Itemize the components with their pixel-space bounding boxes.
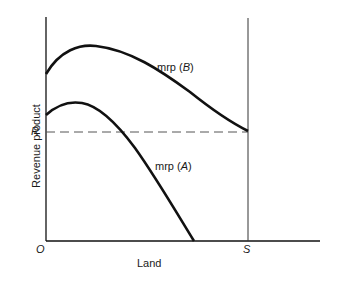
y-axis-label: Revenue product (30, 96, 42, 196)
r-label: R (31, 125, 39, 137)
x-axis-label: Land (137, 257, 161, 269)
mrp-a-prefix: mrp ( (155, 160, 181, 172)
diagram-canvas (0, 0, 337, 285)
mrp-a-letter: A (181, 160, 188, 172)
mrp-a-label: mrp (A) (155, 160, 192, 172)
s-label: S (243, 243, 250, 255)
mrp-b-label: mrp (B) (157, 61, 194, 73)
mrp-b-curve (46, 46, 248, 131)
mrp-a-close: ) (188, 160, 192, 172)
mrp-b-prefix: mrp ( (157, 61, 183, 73)
mrp-b-letter: B (183, 61, 190, 73)
origin-label: O (36, 243, 45, 255)
mrp-b-close: ) (190, 61, 194, 73)
